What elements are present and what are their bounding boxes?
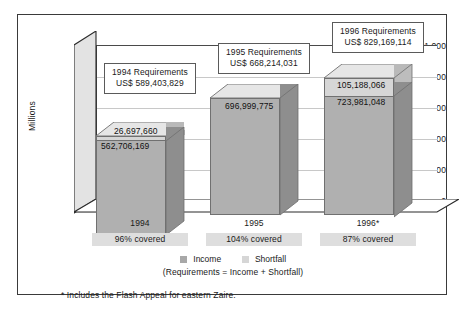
chart-frame: 1,000 800 600 400 200 0 Millions [17,14,447,295]
bar-1996-shortfall-value: 105,188,066 [337,80,385,90]
callout-1996-title: 1996 Requirements [340,26,416,37]
x-tick-label-1994: 1994 [92,218,188,228]
legend-item-income: Income [180,254,221,264]
callout-1995: 1995 Requirements US$ 668,214,031 [218,43,310,74]
legend-swatch-income-icon [180,256,187,263]
bar-1994-income-value: 562,706,169 [101,141,149,151]
callout-1995-amount: US$ 668,214,031 [226,58,302,69]
bar-1996-income-value: 723,981,048 [337,97,385,107]
chart-footnote: * Includes the Flash Appeal for eastern … [61,290,236,300]
bar-1995-income-value: 696,999,775 [225,101,273,111]
chart-legend: Income Shortfall [18,254,448,264]
bar-1994-shortfall-value: 26,697,660 [114,126,158,136]
covered-badge-1995: 104% covered [206,233,302,246]
callout-1994-title: 1994 Requirements [112,67,188,78]
chart-figure: 1,000 800 600 400 200 0 Millions [0,0,466,312]
legend-label-shortfall: Shortfall [255,254,286,264]
callout-1996: 1996 Requirements US$ 829,169,114 [332,22,424,53]
callout-1995-title: 1995 Requirements [226,47,302,58]
callout-1996-amount: US$ 829,169,114 [340,37,416,48]
covered-badge-1996: 87% covered [320,233,416,246]
bar-1996-shortfall-side [394,64,412,82]
x-tick-label-1996: 1996* [320,218,416,228]
y-axis-title: Millions [27,86,37,146]
bar-1994-income-side [166,127,184,221]
covered-badge-1994: 96% covered [92,233,188,246]
legend-item-shortfall: Shortfall [242,254,287,264]
bar-1996-income-front [324,96,394,215]
legend-label-income: Income [193,254,221,264]
bar-1996-income-side [394,82,412,203]
bar-1996[interactable]: 105,188,066 723,981,048 [324,45,412,213]
x-tick-label-1995: 1995 [206,218,302,228]
callout-1994: 1994 Requirements US$ 589,403,829 [104,63,196,94]
legend-note: (Requirements = Income + Shortfall) [18,267,448,277]
legend-swatch-shortfall-icon [242,256,249,263]
bar-1995-income-side [280,84,298,201]
bar-1995-income-front [210,98,280,215]
axis-wall-left [74,45,96,213]
callout-1994-amount: US$ 589,403,829 [112,78,188,89]
